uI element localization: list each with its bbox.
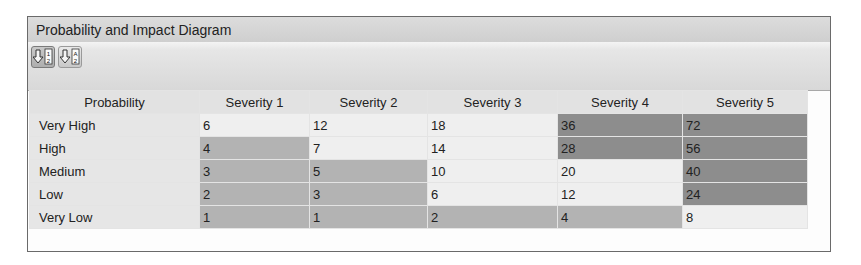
column-header-severity-1[interactable]: Severity 1	[200, 91, 310, 114]
score-cell[interactable]: 1	[200, 206, 310, 229]
column-header-probability[interactable]: Probability	[30, 91, 200, 114]
score-cell[interactable]: 56	[683, 137, 808, 160]
sort-down-a2-icon: A 2	[60, 48, 80, 66]
row-label: Very High	[30, 114, 200, 137]
score-cell[interactable]: 1	[310, 206, 428, 229]
table-row[interactable]: Very Low11248	[30, 206, 808, 229]
score-cell[interactable]: 6	[200, 114, 310, 137]
panel-title: Probability and Impact Diagram	[36, 22, 231, 38]
score-cell[interactable]: 24	[683, 183, 808, 206]
column-header-severity-4[interactable]: Severity 4	[558, 91, 683, 114]
panel-titlebar: Probability and Impact Diagram	[28, 17, 830, 43]
score-cell[interactable]: 2	[428, 206, 558, 229]
row-label: High	[30, 137, 200, 160]
table-row[interactable]: High47142856	[30, 137, 808, 160]
row-label: Medium	[30, 160, 200, 183]
sort-down-12-icon: 1 2	[33, 48, 53, 66]
toolbar: 1 2 A 2	[28, 42, 830, 91]
sort-alpha-button[interactable]: A 2	[58, 46, 82, 68]
probability-impact-table: Probability Severity 1 Severity 2 Severi…	[29, 90, 808, 229]
column-header-severity-2[interactable]: Severity 2	[310, 91, 428, 114]
score-cell[interactable]: 40	[683, 160, 808, 183]
score-cell[interactable]: 8	[683, 206, 808, 229]
table-row[interactable]: Very High612183672	[30, 114, 808, 137]
score-cell[interactable]: 5	[310, 160, 428, 183]
table-row[interactable]: Medium35102040	[30, 160, 808, 183]
column-header-severity-5[interactable]: Severity 5	[683, 91, 808, 114]
svg-text:A: A	[73, 51, 77, 57]
header-row: Probability Severity 1 Severity 2 Severi…	[30, 91, 808, 114]
score-cell[interactable]: 14	[428, 137, 558, 160]
score-cell[interactable]: 7	[310, 137, 428, 160]
score-cell[interactable]: 12	[310, 114, 428, 137]
score-cell[interactable]: 2	[200, 183, 310, 206]
score-cell[interactable]: 4	[200, 137, 310, 160]
row-label: Very Low	[30, 206, 200, 229]
score-cell[interactable]: 36	[558, 114, 683, 137]
score-cell[interactable]: 28	[558, 137, 683, 160]
score-cell[interactable]: 72	[683, 114, 808, 137]
score-cell[interactable]: 3	[310, 183, 428, 206]
sort-numeric-button[interactable]: 1 2	[31, 46, 55, 68]
column-header-severity-3[interactable]: Severity 3	[428, 91, 558, 114]
score-cell[interactable]: 10	[428, 160, 558, 183]
table-row[interactable]: Low2361224	[30, 183, 808, 206]
row-label: Low	[30, 183, 200, 206]
score-cell[interactable]: 4	[558, 206, 683, 229]
score-cell[interactable]: 6	[428, 183, 558, 206]
score-cell[interactable]: 18	[428, 114, 558, 137]
probability-impact-panel: Probability and Impact Diagram 1 2 A 2	[27, 16, 831, 252]
score-cell[interactable]: 3	[200, 160, 310, 183]
score-cell[interactable]: 20	[558, 160, 683, 183]
score-cell[interactable]: 12	[558, 183, 683, 206]
